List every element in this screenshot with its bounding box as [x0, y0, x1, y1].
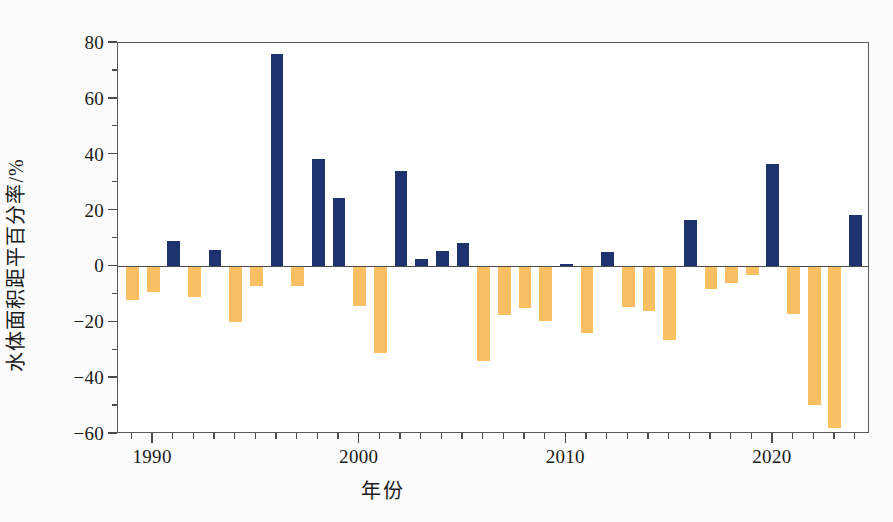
x-tick-minor: [275, 433, 276, 439]
y-tick: [108, 265, 117, 266]
x-tick-minor: [441, 433, 442, 439]
bar: [725, 266, 738, 283]
bar: [229, 266, 242, 322]
x-tick: [151, 433, 152, 443]
bar: [477, 266, 490, 361]
bar: [581, 266, 594, 333]
y-tick-label: 20: [84, 200, 104, 219]
x-tick: [565, 433, 566, 443]
bar: [353, 266, 366, 305]
x-tick-minor: [709, 433, 710, 439]
bar: [167, 241, 180, 266]
y-tick-label: −60: [73, 424, 104, 443]
x-tick-minor: [751, 433, 752, 439]
zero-baseline: [118, 266, 868, 267]
x-tick-minor: [792, 433, 793, 439]
x-tick-minor: [833, 433, 834, 439]
chart-figure: 水体面积距平百分率/% 806040200−20−40−60 199020002…: [0, 0, 893, 522]
y-tick-label: 80: [84, 33, 104, 52]
y-tick-label: −20: [73, 312, 104, 331]
bar: [684, 220, 697, 266]
bar: [849, 215, 862, 267]
x-tick-minor: [668, 433, 669, 439]
bar: [622, 266, 635, 306]
x-tick-minor: [813, 433, 814, 439]
x-tick-minor: [606, 433, 607, 439]
x-tick-label: 2000: [339, 447, 378, 466]
bar: [643, 266, 656, 311]
y-tick-label: 60: [84, 88, 104, 107]
bar: [539, 266, 552, 320]
y-axis-title: 水体面积距平百分率/%: [0, 158, 29, 371]
bar: [126, 266, 139, 300]
x-tick-minor: [420, 433, 421, 439]
x-tick-minor: [730, 433, 731, 439]
x-tick-minor: [399, 433, 400, 439]
bar: [808, 266, 821, 404]
bar: [333, 198, 346, 266]
bar: [312, 159, 325, 267]
bar: [250, 266, 263, 286]
x-tick-minor: [689, 433, 690, 439]
x-tick-minor: [523, 433, 524, 439]
y-tick: [108, 432, 117, 433]
x-tick-minor: [131, 433, 132, 439]
y-tick-label: 0: [94, 256, 104, 275]
x-axis: 1990200020102020: [117, 433, 869, 522]
x-tick-minor: [503, 433, 504, 439]
x-tick-minor: [213, 433, 214, 439]
x-tick: [358, 433, 359, 443]
x-tick-minor: [544, 433, 545, 439]
x-tick-minor: [647, 433, 648, 439]
x-axis-title: 年份: [361, 475, 405, 504]
x-tick-minor: [193, 433, 194, 439]
x-tick-label: 2020: [752, 447, 791, 466]
x-tick: [771, 433, 772, 443]
x-tick-label: 1990: [133, 447, 172, 466]
bar: [705, 266, 718, 288]
bars-layer: [118, 43, 868, 432]
x-tick-label: 2010: [546, 447, 585, 466]
y-tick: [108, 41, 117, 42]
y-tick: [108, 209, 117, 210]
bar: [271, 54, 284, 266]
bar: [374, 266, 387, 353]
bar: [436, 251, 449, 266]
x-tick-minor: [854, 433, 855, 439]
bar: [828, 266, 841, 428]
y-tick: [108, 321, 117, 322]
plot-area: [117, 42, 869, 433]
x-tick-minor: [172, 433, 173, 439]
bar: [498, 266, 511, 315]
bar: [601, 252, 614, 266]
bar: [188, 266, 201, 297]
bar: [457, 243, 470, 267]
x-tick-minor: [461, 433, 462, 439]
x-tick-minor: [627, 433, 628, 439]
x-tick-minor: [585, 433, 586, 439]
bar: [787, 266, 800, 313]
bar: [395, 171, 408, 266]
bar: [663, 266, 676, 340]
y-tick: [108, 97, 117, 98]
bar: [766, 164, 779, 266]
bar: [291, 266, 304, 286]
y-tick-label: 40: [84, 144, 104, 163]
bar: [209, 250, 222, 267]
bar: [746, 266, 759, 274]
y-tick: [108, 153, 117, 154]
bar: [147, 266, 160, 291]
x-tick-minor: [482, 433, 483, 439]
x-tick-minor: [379, 433, 380, 439]
y-tick: [108, 376, 117, 377]
x-tick-minor: [337, 433, 338, 439]
bar: [519, 266, 532, 308]
x-tick-minor: [317, 433, 318, 439]
x-tick-minor: [255, 433, 256, 439]
x-tick-minor: [234, 433, 235, 439]
x-tick-minor: [296, 433, 297, 439]
y-axis: 水体面积距平百分率/% 806040200−20−40−60: [0, 0, 117, 522]
y-tick-label: −40: [73, 368, 104, 387]
